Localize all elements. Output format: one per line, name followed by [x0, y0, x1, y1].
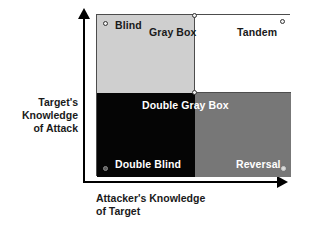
label-tandem: Tandem	[237, 26, 277, 38]
knowledge-matrix-diagram: Target's Knowledge of Attack Attacker's …	[0, 0, 311, 229]
point-marker-tandem	[280, 19, 285, 24]
point-marker-double-blind	[103, 166, 108, 171]
label-blind: Blind	[115, 19, 142, 31]
y-axis-label-line1: Target's	[2, 96, 78, 109]
label-double-gray-box: Double Gray Box	[142, 99, 229, 111]
point-marker-reversal	[281, 166, 286, 171]
point-marker-top-center	[192, 13, 197, 18]
label-double-blind: Double Blind	[115, 158, 181, 170]
x-axis-label: Attacker's Knowledge of Target	[96, 192, 296, 218]
y-axis-label-line3: of Attack	[2, 122, 78, 135]
label-reversal: Reversal	[236, 158, 281, 170]
arrow-right-icon	[277, 176, 288, 188]
x-axis-label-line1: Attacker's Knowledge	[96, 192, 296, 205]
y-axis-line	[83, 18, 85, 182]
point-marker-center	[192, 90, 197, 95]
horizontal-divider	[195, 92, 291, 93]
y-axis-label: Target's Knowledge of Attack	[2, 96, 78, 135]
y-axis-label-line2: Knowledge	[2, 109, 78, 122]
x-axis-line	[83, 181, 280, 183]
matrix-plot-area: Blind Gray Box Tandem Double Gray Box Do…	[96, 14, 290, 176]
label-gray-box: Gray Box	[149, 26, 197, 38]
arrow-up-icon	[78, 8, 90, 19]
point-marker-blind	[103, 21, 108, 26]
x-axis-label-line2: of Target	[96, 205, 296, 218]
